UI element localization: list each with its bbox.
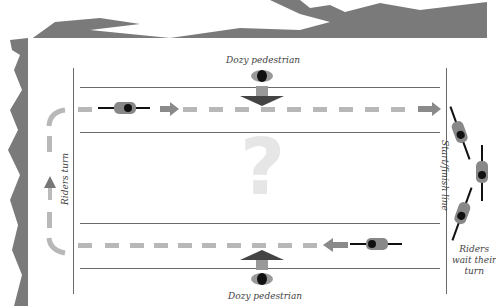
pedestrian-icon-bottom (250, 271, 274, 287)
riders-turn-label: Riders turn (60, 153, 70, 205)
arrow-right-icon (418, 102, 442, 116)
arrow-left-icon (323, 238, 349, 252)
left-boundary (73, 68, 74, 294)
rider-bottom-lane (350, 236, 404, 252)
arrow-up-icon (240, 250, 284, 270)
rider-top-lane (98, 100, 152, 116)
bottom-pedestrian-label: Dozy pedestrian (228, 291, 302, 301)
arrow-down-icon (240, 86, 284, 106)
pedestrian-icon-top (250, 68, 274, 84)
arrow-right-icon (160, 102, 180, 116)
riders-wait-label: Riders wait their turn (452, 244, 496, 277)
bottom-lane-upper-line (80, 223, 440, 224)
top-pedestrian-label: Dozy pedestrian (226, 55, 300, 65)
wait-line-2: wait their (452, 255, 496, 266)
waiting-rider-3 (450, 186, 474, 242)
waiting-rider-1 (448, 105, 472, 161)
waiting-rider-2 (474, 145, 488, 201)
wait-line-3: turn (452, 266, 496, 277)
question-mark: ? (240, 128, 285, 206)
wait-line-1: Riders (452, 244, 496, 255)
